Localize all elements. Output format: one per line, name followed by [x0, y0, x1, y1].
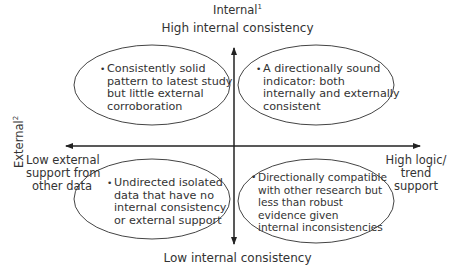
vertical-axis-title: Internal1 — [0, 4, 455, 17]
quadrant-bottom-left: • Undirected isolated data that have no … — [114, 177, 226, 227]
right-axis-label: High logic/ trend support — [380, 154, 452, 193]
diagram-canvas — [0, 0, 455, 275]
bullet-icon: • — [100, 63, 105, 76]
quadrant-top-left: • Consistently solid pattern to latest s… — [107, 63, 232, 113]
bottom-axis-label: Low internal consistency — [0, 252, 455, 265]
quadrant-top-right: • A directionally sound indicator: both … — [263, 63, 400, 113]
bullet-icon: • — [256, 63, 261, 76]
bullet-icon: • — [107, 177, 112, 190]
quadrant-bottom-right: • Directionally compatible with other re… — [258, 171, 387, 234]
horizontal-axis-title: External2 — [12, 116, 26, 168]
bullet-icon: • — [251, 171, 256, 184]
top-axis-label: High internal consistency — [0, 22, 455, 35]
left-axis-label: Low external support from other data — [26, 154, 98, 193]
